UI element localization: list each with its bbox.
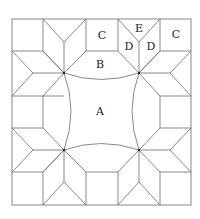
label-c-right: C	[172, 28, 180, 41]
quilt-block-diagram: A B C C D D E	[0, 0, 200, 219]
right-top-star	[139, 51, 191, 128]
left-bottom-star	[12, 128, 86, 205]
label-d-right: D	[147, 40, 156, 53]
label-b: B	[96, 58, 104, 71]
left-top-star	[12, 51, 64, 128]
label-c-left: C	[98, 29, 106, 42]
right-bottom-star	[118, 128, 191, 205]
label-e: E	[135, 22, 143, 35]
label-a: A	[95, 105, 105, 118]
label-d-left: D	[125, 40, 134, 53]
bottom-middle-square	[86, 172, 118, 205]
